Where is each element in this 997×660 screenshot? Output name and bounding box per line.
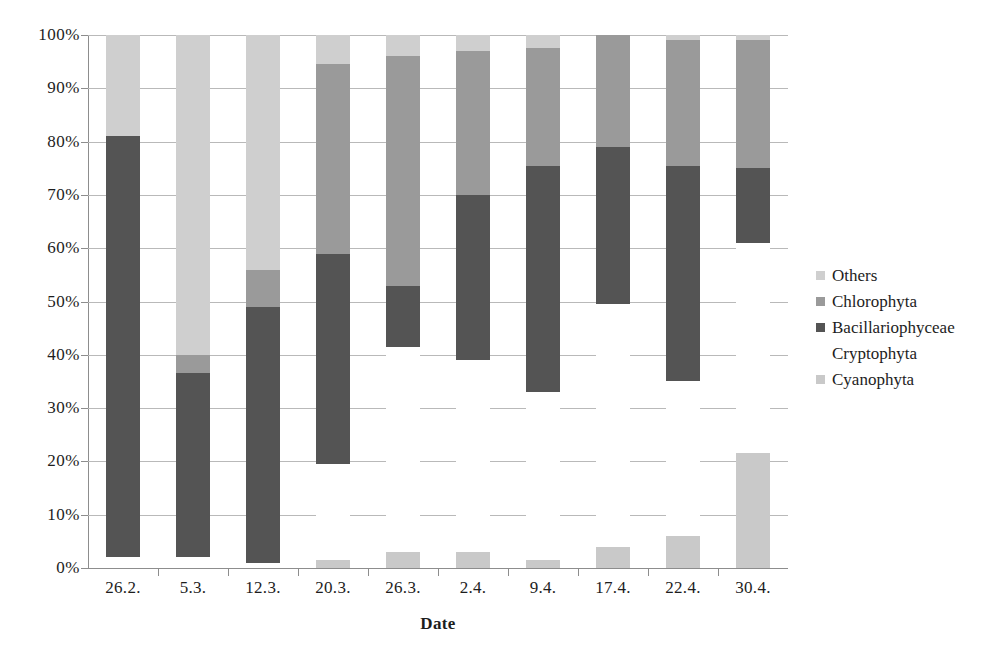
legend-item-label: Cryptophyta [832,345,917,362]
bar-segment[interactable] [736,35,770,40]
bar-segment[interactable] [386,56,420,285]
bar-segment[interactable] [386,286,420,347]
y-axis-tick-mark [81,35,88,36]
bar-segment[interactable] [386,552,420,568]
legend-item[interactable]: Chlorophyta [816,288,994,314]
y-axis-tick-label: 70% [24,185,80,205]
bar-segment[interactable] [526,48,560,165]
x-axis-tick-label: 20.3. [315,578,351,598]
bar-segment[interactable] [176,35,210,355]
bar-segment[interactable] [666,166,700,382]
bar-segment[interactable] [456,195,490,360]
bar-segment[interactable] [176,355,210,374]
bar-segment[interactable] [246,35,280,270]
bar-group[interactable] [176,35,210,568]
bar-group[interactable] [456,35,490,568]
x-axis-tick-mark [578,568,579,576]
bar-segment[interactable] [456,51,490,195]
bar-segment[interactable] [176,557,210,568]
x-axis-tick-label: 2.4. [460,578,487,598]
legend-item[interactable]: Others [816,262,994,288]
x-axis-tick-mark [298,568,299,576]
bar-segment[interactable] [736,453,770,568]
y-axis-tick-mark [81,88,88,89]
y-axis-tick-label: 80% [24,132,80,152]
legend-item[interactable]: Bacillariophyceae [816,314,994,340]
bar-group[interactable] [316,35,350,568]
bar-segment[interactable] [246,563,280,568]
bar-segment[interactable] [386,35,420,56]
y-axis-tick-label: 20% [24,451,80,471]
stacked-bar-chart: 0%10%20%30%40%50%60%70%80%90%100% 26.2.5… [0,0,997,660]
legend-swatch-icon [816,271,825,280]
bar-segment[interactable] [666,40,700,165]
x-axis-tick-label: 17.4. [595,578,631,598]
x-axis-tick-label: 26.2. [105,578,141,598]
plot-area [88,35,788,568]
x-axis-tick-mark [158,568,159,576]
y-axis-tick-mark [81,461,88,462]
bar-segment[interactable] [526,35,560,48]
bar-segment[interactable] [106,35,140,136]
bar-segment[interactable] [456,35,490,51]
y-axis-tick-label: 50% [24,292,80,312]
bar-group[interactable] [596,35,630,568]
bar-segment[interactable] [666,35,700,40]
x-axis-tick-label: 9.4. [530,578,557,598]
bar-segment[interactable] [596,35,630,147]
legend-swatch-icon [816,349,825,358]
bar-segment[interactable] [736,168,770,243]
x-axis-tick-label: 5.3. [180,578,207,598]
x-axis-tick-label: 22.4. [665,578,701,598]
bar-group[interactable] [106,35,140,568]
legend: OthersChlorophytaBacillariophyceaeCrypto… [816,262,994,392]
y-axis-labels: 0%10%20%30%40%50%60%70%80%90%100% [14,35,80,568]
bar-group[interactable] [526,35,560,568]
bar-group[interactable] [246,35,280,568]
x-axis-tick-label: 12.3. [245,578,281,598]
bar-segment[interactable] [526,560,560,568]
bar-segment[interactable] [316,560,350,568]
bar-segment[interactable] [666,536,700,568]
bar-group[interactable] [666,35,700,568]
bar-segment[interactable] [246,270,280,307]
bar-segment[interactable] [736,243,770,454]
bar-segment[interactable] [456,360,490,552]
bar-segment[interactable] [666,381,700,536]
x-axis-title: Date [88,614,788,634]
x-axis-tick-mark [438,568,439,576]
bar-segment[interactable] [596,147,630,304]
bar-group[interactable] [386,35,420,568]
bar-segment[interactable] [106,557,140,568]
bar-segment[interactable] [596,547,630,568]
bar-segment[interactable] [526,166,560,393]
bar-segment[interactable] [736,40,770,168]
x-axis-tick-mark [368,568,369,576]
y-axis-tick-label: 90% [24,78,80,98]
legend-item-label: Bacillariophyceae [832,319,955,336]
legend-item-label: Chlorophyta [832,293,917,310]
y-axis-tick-label: 100% [24,25,80,45]
legend-item[interactable]: Cyanophyta [816,366,994,392]
bar-group[interactable] [736,35,770,568]
legend-item-label: Cyanophyta [832,371,914,388]
y-axis-tick-label: 60% [24,238,80,258]
bar-segment[interactable] [386,347,420,552]
bar-segment[interactable] [106,136,140,557]
bar-segment[interactable] [316,254,350,465]
bar-segment[interactable] [526,392,560,560]
x-axis-tick-mark [228,568,229,576]
bar-segment[interactable] [456,552,490,568]
bar-segment[interactable] [246,307,280,563]
bar-segment[interactable] [176,373,210,557]
bar-segment[interactable] [316,64,350,253]
bar-segment[interactable] [596,304,630,547]
x-axis-tick-mark [508,568,509,576]
bar-segment[interactable] [316,464,350,560]
y-axis-tick-label: 30% [24,398,80,418]
y-axis-tick-mark [81,408,88,409]
bar-segment[interactable] [316,35,350,64]
y-axis-tick-mark [81,355,88,356]
y-axis-tick-mark [81,302,88,303]
legend-item[interactable]: Cryptophyta [816,340,994,366]
